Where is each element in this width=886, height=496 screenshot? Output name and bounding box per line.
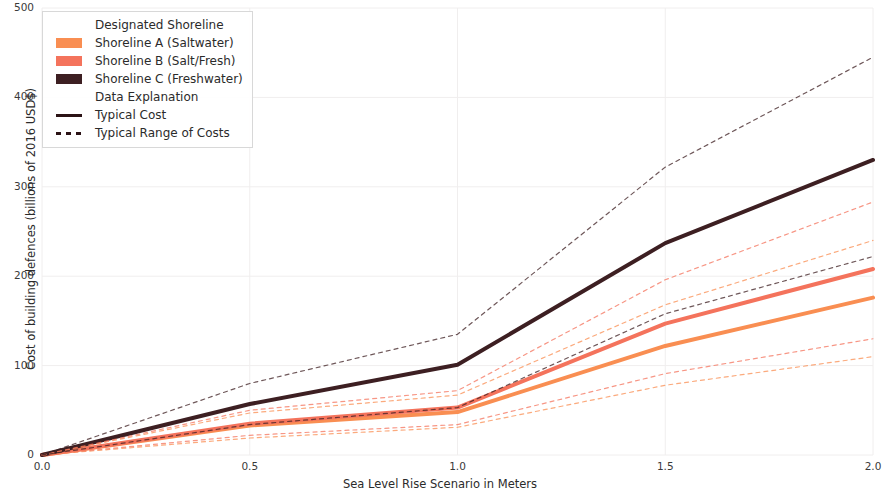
legend-item-typical-cost[interactable]: Typical Cost <box>49 106 243 124</box>
legend-swatch-shoreline-b <box>49 52 89 70</box>
legend-swatch-shoreline-a <box>49 34 89 52</box>
legend-subtitle-label: Data Explanation <box>49 90 198 104</box>
legend-label-typical-range: Typical Range of Costs <box>89 126 230 140</box>
x-tick-label: 2.0 <box>853 460 886 472</box>
x-tick-label: 1.0 <box>438 460 478 472</box>
legend-item-typical-range[interactable]: Typical Range of Costs <box>49 124 243 142</box>
chart-legend: Designated Shoreline Shoreline A (Saltwa… <box>42 11 253 148</box>
x-tick-label: 0.0 <box>22 460 62 472</box>
legend-item-shoreline-a[interactable]: Shoreline A (Saltwater) <box>49 34 243 52</box>
legend-label-shoreline-b: Shoreline B (Salt/Fresh) <box>89 54 236 68</box>
solid-line-icon <box>49 106 89 124</box>
legend-item-shoreline-b[interactable]: Shoreline B (Salt/Fresh) <box>49 52 243 70</box>
legend-label-typical-cost: Typical Cost <box>89 108 166 122</box>
x-tick-label: 1.5 <box>645 460 685 472</box>
legend-group-title-data-explanation: Data Explanation <box>49 88 243 106</box>
y-axis-title: Cost of building defences (billions of 2… <box>24 39 38 419</box>
legend-title-label: Designated Shoreline <box>49 18 224 32</box>
legend-swatch-shoreline-c <box>49 70 89 88</box>
legend-group-title-shoreline: Designated Shoreline <box>49 16 243 34</box>
legend-item-shoreline-c[interactable]: Shoreline C (Freshwater) <box>49 70 243 88</box>
x-axis-title: Sea Level Rise Scenario in Meters <box>0 477 880 491</box>
y-tick-label: 0 <box>0 448 34 460</box>
legend-label-shoreline-a: Shoreline A (Saltwater) <box>89 36 234 50</box>
x-tick-label: 0.5 <box>230 460 270 472</box>
legend-label-shoreline-c: Shoreline C (Freshwater) <box>89 72 243 86</box>
dotted-line-icon <box>49 124 89 142</box>
y-tick-label: 500 <box>0 1 34 13</box>
